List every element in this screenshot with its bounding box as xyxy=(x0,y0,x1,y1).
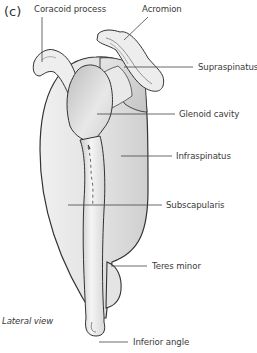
label-acromion: Acromion xyxy=(142,5,182,14)
label-glenoid-cavity: Glenoid cavity xyxy=(179,110,239,119)
view-label: Lateral view xyxy=(2,317,53,326)
label-supraspinatus: Supraspinatus xyxy=(198,63,257,72)
teres-minor-shape xyxy=(106,262,121,308)
panel-label: (c) xyxy=(4,5,21,18)
label-inferior-angle: Inferior angle xyxy=(133,338,189,347)
label-subscapularis: Subscapularis xyxy=(166,201,224,210)
label-infraspinatus: Infraspinatus xyxy=(176,152,231,161)
label-coracoid-process: Coracoid process xyxy=(34,5,106,14)
scapula-illustration xyxy=(0,0,257,353)
leader-acromion xyxy=(124,17,148,40)
label-teres-minor: Teres minor xyxy=(152,262,201,271)
scapula-lateral-view-diagram: (c) Coracoid process Acromion Supraspina… xyxy=(0,0,257,353)
